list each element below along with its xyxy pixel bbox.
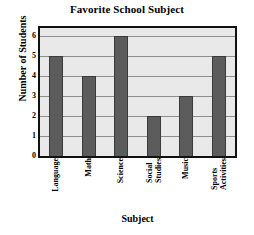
- x-tick-label-line: Activities: [219, 158, 228, 190]
- x-axis-title: Subject: [38, 213, 237, 224]
- x-tick-label-line: Science: [117, 158, 126, 183]
- x-tick-label: SocialStudies: [138, 158, 171, 214]
- x-tick-label: Language: [40, 158, 73, 214]
- bar-chart: Favorite School Subject Number of Studen…: [0, 0, 254, 235]
- y-tick-label: 2: [22, 112, 36, 120]
- bar: [147, 116, 161, 156]
- plot-inner: [40, 28, 235, 156]
- gridline: [40, 76, 235, 77]
- bar: [49, 56, 63, 156]
- x-tick-label-line: Studies: [154, 158, 163, 183]
- gridline: [40, 56, 235, 57]
- x-tick-label-line: Sports: [210, 158, 219, 190]
- bar: [82, 76, 96, 156]
- bar: [212, 56, 226, 156]
- y-axis-tick-labels: 0123456: [18, 0, 36, 235]
- x-tick-label-line: Social: [145, 158, 154, 183]
- gridline: [40, 96, 235, 97]
- gridline: [40, 136, 235, 137]
- bar: [179, 96, 193, 156]
- y-tick-label: 1: [22, 132, 36, 140]
- x-tick-label-line: Language: [52, 158, 61, 192]
- y-tick-label: 6: [22, 32, 36, 40]
- plot-area: [38, 26, 237, 158]
- y-tick-label: 4: [22, 72, 36, 80]
- chart-title: Favorite School Subject: [0, 3, 254, 15]
- x-tick-label: SportsActivities: [203, 158, 236, 214]
- x-tick-label: Music: [170, 158, 203, 214]
- x-tick-label: Math: [73, 158, 106, 214]
- gridline: [40, 36, 235, 37]
- x-axis-tick-labels: LanguageMathScienceSocialStudiesMusicSpo…: [38, 158, 237, 214]
- gridline: [40, 116, 235, 117]
- y-tick-label: 3: [22, 92, 36, 100]
- y-tick-label: 5: [22, 52, 36, 60]
- y-tick-label: 0: [22, 152, 36, 160]
- x-tick-label: Science: [105, 158, 138, 214]
- bar: [114, 36, 128, 156]
- x-tick-label-line: Music: [182, 158, 191, 179]
- x-tick-label-line: Math: [85, 158, 94, 177]
